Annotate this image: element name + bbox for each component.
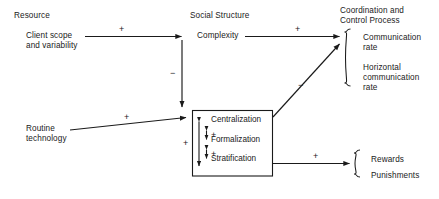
sign-structure-outer: + — [183, 139, 188, 148]
node-client-scope-line2: and variability — [26, 41, 78, 51]
node-formalization: Formalization — [211, 135, 260, 144]
node-horizontal-communication-line2: communication — [363, 73, 419, 83]
communication-group-brace — [345, 29, 351, 86]
node-routine-technology-line1: Routine — [26, 124, 55, 134]
sign-edge-complexity-to-structure: − — [170, 69, 175, 78]
sign-edge-structure-to-communication: − — [298, 81, 303, 90]
edge-structure-to-communication — [273, 44, 340, 117]
node-routine-technology-line2: technology — [26, 134, 67, 144]
sign-edge-complexity-to-communication: + — [295, 25, 300, 34]
sign-edge-client-scope-to-complexity: + — [119, 25, 124, 34]
column-heading-social-structure: Social Structure — [190, 11, 249, 21]
column-heading-coordination-line2: Control Process — [340, 16, 400, 26]
node-centralization: Centralization — [211, 115, 261, 124]
path-diagram: Resource Social Structure Coordination a… — [0, 0, 439, 199]
node-communication-rate-line2: rate — [363, 43, 378, 53]
node-client-scope-line1: Client scope — [26, 31, 72, 41]
rewards-group-brace — [354, 150, 360, 177]
node-stratification: Stratification — [211, 154, 256, 163]
sign-edge-structure-to-rewards: + — [313, 152, 318, 161]
node-punishments: Punishments — [371, 171, 419, 181]
column-heading-resource: Resource — [14, 11, 50, 21]
node-horizontal-communication-line3: rate — [363, 83, 378, 93]
sign-structure-inner-2: + — [211, 150, 216, 159]
node-rewards: Rewards — [371, 155, 404, 165]
sign-edge-routine-technology-to-structure: + — [124, 113, 129, 122]
node-horizontal-communication-line1: Horizontal — [363, 63, 401, 73]
column-heading-coordination-line1: Coordination and — [340, 6, 404, 16]
node-complexity: Complexity — [197, 31, 239, 41]
sign-structure-inner-1: + — [211, 131, 216, 140]
node-communication-rate-line1: Communication — [363, 33, 421, 43]
diagram-canvas — [0, 0, 439, 199]
